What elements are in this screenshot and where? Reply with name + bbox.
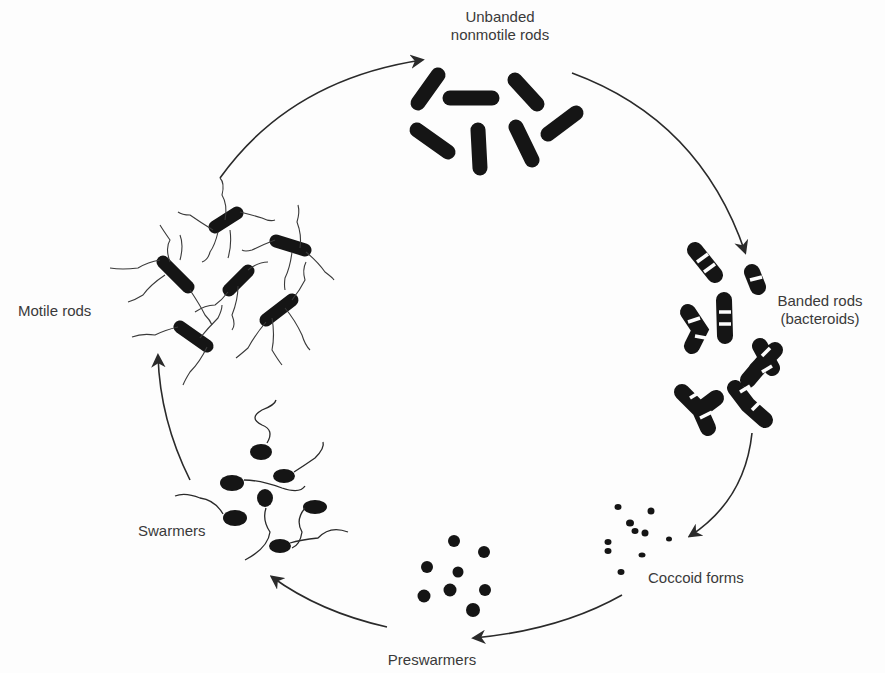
label-banded-line1: Banded rods xyxy=(760,292,880,310)
label-coccoid-text: Coccoid forms xyxy=(648,569,758,587)
motile-rods-illustration xyxy=(110,178,334,385)
unbanded-rods-illustration xyxy=(417,75,576,168)
label-swarmers-text: Swarmers xyxy=(138,522,218,540)
label-unbanded-line2: nonmotile rods xyxy=(430,26,570,44)
life-cycle-diagram: Unbanded nonmotile rods Banded rods (bac… xyxy=(0,0,885,673)
arrow-banded-to-coccoid xyxy=(690,433,752,536)
arrow-preswarmers-to-swarmers xyxy=(272,577,387,627)
label-motile-text: Motile rods xyxy=(18,302,128,320)
label-banded-line2: (bacteroids) xyxy=(760,310,880,328)
label-banded-rods: Banded rods (bacteroids) xyxy=(760,292,880,328)
preswarmers-illustration xyxy=(418,535,492,617)
label-unbanded-line1: Unbanded xyxy=(430,8,570,26)
label-motile-rods: Motile rods xyxy=(18,302,128,320)
arrow-unbanded-to-banded xyxy=(572,73,745,252)
arrow-swarmers-to-motile xyxy=(158,356,190,480)
label-unbanded-nonmotile-rods: Unbanded nonmotile rods xyxy=(430,8,570,44)
label-preswarmers: Preswarmers xyxy=(372,651,492,669)
arrow-coccoid-to-preswarmers xyxy=(474,595,622,638)
coccoid-forms-illustration xyxy=(605,504,673,575)
arrow-motile-to-unbanded xyxy=(220,60,422,178)
label-swarmers: Swarmers xyxy=(138,522,218,540)
label-preswarmers-text: Preswarmers xyxy=(372,651,492,669)
label-coccoid-forms: Coccoid forms xyxy=(648,569,758,587)
banded-rods-illustration xyxy=(682,250,775,428)
